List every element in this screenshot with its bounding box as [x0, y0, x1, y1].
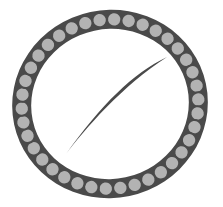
logo-canvas: Beaded Oval Emblem with Swash Stroke	[0, 0, 223, 207]
emblem-logo: Beaded Oval Emblem with Swash Stroke	[0, 0, 223, 207]
